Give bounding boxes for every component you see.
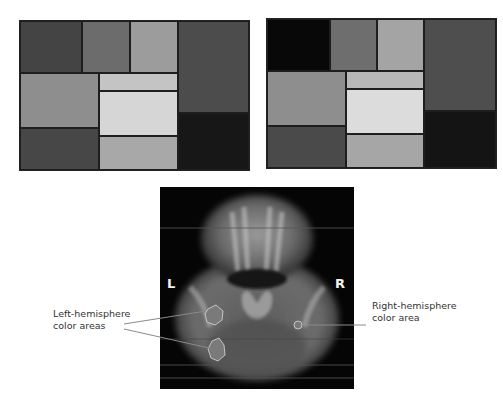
mondrian-cell [330, 19, 377, 71]
mondrian-cell [99, 73, 178, 91]
mondrian-cell [267, 71, 346, 126]
brain-axial-slice [160, 187, 354, 389]
mondrian-cell [424, 111, 496, 168]
right-hemisphere-label: Right-hemisphere color area [372, 300, 457, 324]
right-label-line2: color area [372, 312, 457, 324]
mondrian-panel-right [266, 18, 497, 169]
mondrian-cell [346, 71, 424, 89]
mondrian-cell [346, 134, 424, 168]
mondrian-cell [377, 19, 424, 71]
right-label-line1: Right-hemisphere [372, 300, 457, 312]
right-hemisphere-marker: R [335, 276, 345, 291]
mondrian-cell [178, 113, 249, 170]
left-label-line1: Left-hemisphere [53, 308, 130, 320]
left-label-line2: color areas [53, 320, 130, 332]
mondrian-cell [130, 21, 178, 73]
mondrian-cell [267, 19, 330, 71]
mondrian-cell [20, 21, 82, 73]
mondrian-panel-left [19, 20, 250, 171]
mondrian-cell [82, 21, 130, 73]
mondrian-cell [424, 19, 496, 111]
mondrian-cell [99, 91, 178, 136]
mondrian-cell [267, 126, 346, 168]
mondrian-cell [20, 128, 99, 170]
mondrian-cell [178, 21, 249, 113]
left-hemisphere-marker: L [167, 276, 175, 291]
brain-scan-image: L R [160, 187, 354, 389]
mondrian-cell [99, 136, 178, 170]
left-hemisphere-label: Left-hemisphere color areas [53, 308, 130, 332]
mondrian-cell [346, 89, 424, 134]
right-color-area [294, 321, 302, 329]
mondrian-cell [20, 73, 99, 128]
